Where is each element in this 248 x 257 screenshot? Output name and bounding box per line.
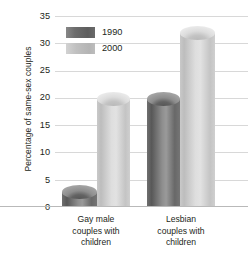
category-line-2: couples with: [48, 226, 144, 238]
legend-swatch-2000: [66, 43, 95, 54]
bar-gay-male-1990: [62, 185, 97, 207]
y-tick-0: 0: [6, 203, 50, 212]
category-line-3: children: [133, 237, 229, 249]
category-line-1: Lesbian: [133, 214, 229, 226]
y-tick-10: 10: [6, 148, 50, 157]
x-category-label-lesbian: Lesbian couples with children: [133, 214, 229, 249]
category-line-3: children: [48, 237, 144, 249]
category-line-1: Gay male: [48, 214, 144, 226]
bar-top-cap: [97, 92, 130, 106]
gridline-25: [55, 71, 248, 72]
gridline-35: [55, 16, 248, 17]
x-category-label-gay-male: Gay male couples with children: [48, 214, 144, 249]
bar-lesbian-1990: [147, 92, 180, 207]
bar-body: [180, 33, 215, 207]
legend-label-2000: 2000: [102, 44, 122, 53]
bar-lesbian-2000: [180, 26, 215, 207]
y-tick-25: 25: [6, 66, 50, 75]
bar-top-cap: [180, 26, 215, 40]
y-tick-20: 20: [6, 93, 50, 102]
legend-swatch-1990: [66, 27, 95, 38]
bar-body: [147, 99, 180, 207]
bar-gay-male-2000: [97, 92, 130, 207]
y-tick-5: 5: [6, 176, 50, 185]
y-tick-35: 35: [6, 12, 50, 21]
legend-item-1990: 1990: [66, 26, 122, 39]
bar-body: [97, 99, 130, 207]
category-line-2: couples with: [133, 226, 229, 238]
legend: 1990 2000: [66, 26, 122, 58]
bar-top-cap: [147, 92, 180, 106]
y-tick-30: 30: [6, 39, 50, 48]
legend-label-1990: 1990: [102, 28, 122, 37]
y-tick-15: 15: [6, 121, 50, 130]
x-axis-baseline: [0, 206, 248, 207]
bar-top-cap: [62, 185, 97, 199]
legend-item-2000: 2000: [66, 42, 122, 55]
bar-chart: Percentage of same-sex couples 35 30 25 …: [0, 0, 248, 257]
